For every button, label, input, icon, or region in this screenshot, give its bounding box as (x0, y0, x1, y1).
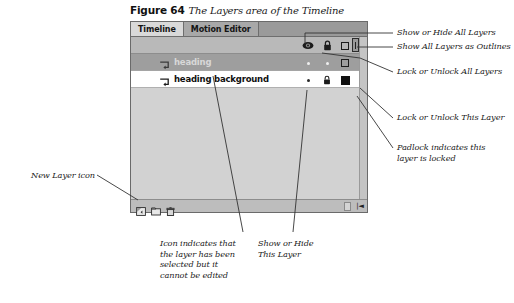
visibility-dot-icon (307, 62, 310, 65)
panel-tab-strip: Timeline Motion Editor (131, 22, 367, 37)
tab-motion-editor[interactable]: Motion Editor (184, 22, 259, 36)
filled-square-icon (341, 76, 350, 85)
new-layer-button[interactable] (136, 202, 146, 211)
figure-number: Figure 64 (130, 4, 185, 16)
annotation-show-hide-this: Show or Hide This Layer (258, 238, 338, 259)
eye-icon[interactable] (302, 40, 314, 51)
tab-timeline[interactable]: Timeline (131, 22, 184, 36)
layer-name: heading (174, 57, 211, 68)
annotation-lock-unlock-all: Lock or Unlock All Layers (397, 66, 502, 77)
visibility-dot-icon (307, 79, 310, 82)
table-row[interactable]: heading background (131, 71, 367, 88)
annotation-padlock-note: Padlock indicates this layer is locked (397, 142, 485, 163)
timeline-panel: Timeline Motion Editor (130, 21, 368, 213)
panel-resize-handle[interactable] (352, 38, 359, 52)
outline-square-icon (341, 59, 349, 67)
annotation-show-hide-all: Show or Hide All Layers (397, 27, 496, 38)
figure-title: The Layers area of the Timeline (189, 5, 345, 16)
tab-strip-filler (259, 22, 367, 36)
layer-lock-toggle[interactable] (321, 75, 333, 85)
layers-empty-area (131, 88, 367, 199)
layer-lock-toggle[interactable] (321, 58, 333, 68)
horizontal-scrollbar-thumb[interactable] (344, 202, 351, 211)
layers-footer-toolbar: |◄ (131, 199, 367, 212)
table-row[interactable]: heading (131, 54, 367, 71)
panel-right-gutter (359, 37, 367, 199)
lock-icon[interactable] (321, 40, 333, 51)
selected-not-editable-icon (159, 57, 170, 68)
layer-outline-toggle[interactable] (339, 75, 351, 85)
padlock-icon (323, 75, 331, 85)
annotation-new-layer-icon: New Layer icon (0, 170, 95, 181)
annotation-lock-unlock-this: Lock or Unlock This Layer (397, 112, 504, 123)
lock-dot-icon (326, 62, 329, 65)
outline-square-icon[interactable] (339, 40, 351, 51)
layers-header-row (131, 37, 367, 54)
new-folder-button[interactable] (151, 202, 161, 211)
outline-square-glyph (341, 42, 349, 50)
figure-caption: Figure 64The Layers area of the Timeline (130, 2, 344, 17)
annotation-selected-note: Icon indicates that the layer has been s… (160, 238, 250, 280)
layer-outline-toggle[interactable] (339, 58, 351, 68)
scroll-end-icon[interactable]: |◄ (356, 203, 364, 210)
annotation-show-outlines-all: Show All Layers as Outlines (397, 41, 511, 52)
layer-visibility-toggle[interactable] (302, 75, 314, 85)
delete-layer-button[interactable] (166, 202, 176, 211)
layer-icon (159, 74, 170, 85)
layer-visibility-toggle[interactable] (302, 58, 314, 68)
layer-name: heading background (174, 74, 269, 85)
